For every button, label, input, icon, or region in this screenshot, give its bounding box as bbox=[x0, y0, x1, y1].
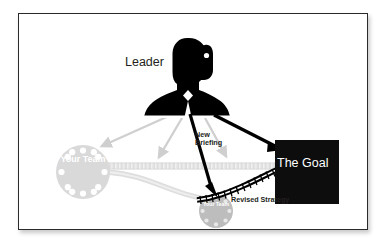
edge-new-briefing bbox=[190, 114, 218, 198]
slide-canvas: Leader The Goal New Briefing Revised Str… bbox=[0, 0, 389, 251]
edge-team-to-goal-track bbox=[107, 163, 281, 170]
new-briefing-label: New Briefing bbox=[195, 131, 222, 147]
gray-arrow-center bbox=[159, 118, 182, 157]
node-your-team[interactable] bbox=[56, 145, 110, 199]
gray-arrow-to-team bbox=[102, 115, 171, 146]
revised-strategy-label: Revised Strategy bbox=[231, 196, 289, 204]
edge-leader-to-goal bbox=[214, 115, 282, 152]
leader-label: Leader bbox=[125, 55, 164, 69]
diagram-svg bbox=[19, 14, 369, 231]
slide-frame: Leader The Goal New Briefing Revised Str… bbox=[18, 13, 368, 230]
goal-label: The Goal bbox=[277, 156, 328, 170]
leader-eye-icon bbox=[204, 53, 209, 58]
node-leader-silhouette[interactable] bbox=[144, 38, 230, 118]
